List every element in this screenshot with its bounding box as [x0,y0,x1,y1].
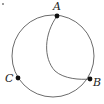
geometry-figure: A B C [0,0,104,104]
point-a-dot [55,14,60,19]
main-circle [12,15,94,97]
point-label-a: A [53,1,61,12]
point-b-dot [88,77,93,82]
point-label-b: B [93,77,101,88]
point-c-dot [16,76,21,81]
point-label-c: C [5,73,13,84]
corner-speck [2,3,4,5]
arc-a-to-b [47,16,90,79]
figure-canvas [0,0,104,104]
